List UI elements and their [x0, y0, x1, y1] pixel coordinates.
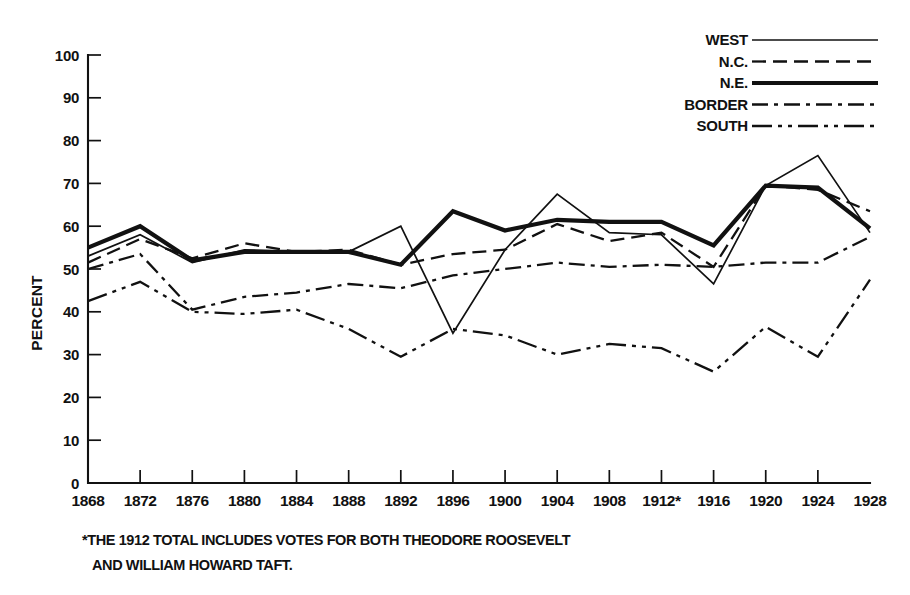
y-tick-label-10: 10	[63, 432, 79, 449]
x-tick-label-1912star: 1912*	[642, 492, 682, 509]
legend-label-west: WEST	[705, 31, 748, 48]
y-tick-label-20: 20	[63, 389, 79, 406]
x-tick-label-1892: 1892	[384, 492, 417, 509]
x-tick-label-1872: 1872	[124, 492, 157, 509]
y-tick-label-40: 40	[63, 303, 79, 320]
y-tick-label-30: 30	[63, 346, 79, 363]
x-tick-label-1868: 1868	[72, 492, 106, 509]
y-axis-title: PERCENT	[28, 275, 45, 351]
x-tick-label-1924: 1924	[801, 492, 835, 509]
legend-label-ne: N.E.	[720, 74, 748, 91]
x-tick-label-1904: 1904	[541, 492, 575, 509]
y-tick-label-50: 50	[63, 261, 79, 278]
footnote-line-2: AND WILLIAM HOWARD TAFT.	[92, 557, 293, 573]
line-chart: 0102030405060708090100 18681872187618801…	[0, 0, 910, 595]
x-tick-label-1888: 1888	[332, 492, 366, 509]
footnote-line-1: *THE 1912 TOTAL INCLUDES VOTES FOR BOTH …	[82, 532, 571, 548]
y-tick-label-60: 60	[63, 218, 79, 235]
y-tick-label-90: 90	[63, 89, 79, 106]
x-tick-label-1876: 1876	[176, 492, 210, 509]
x-tick-label-1920: 1920	[749, 492, 782, 509]
y-tick-label-80: 80	[63, 132, 79, 149]
legend-label-nc: N.C.	[719, 53, 748, 70]
x-tick-label-1916: 1916	[697, 492, 731, 509]
y-tick-label-70: 70	[63, 175, 79, 192]
chart-figure: 0102030405060708090100 18681872187618801…	[0, 0, 910, 595]
x-tick-label-1928: 1928	[854, 492, 888, 509]
x-tick-label-1896: 1896	[436, 492, 470, 509]
x-tick-label-1900: 1900	[489, 492, 522, 509]
legend-label-south: SOUTH	[696, 117, 748, 134]
y-tick-label-100: 100	[55, 47, 79, 64]
legend-label-border: BORDER	[684, 96, 748, 113]
x-tick-label-1908: 1908	[593, 492, 627, 509]
x-tick-label-1884: 1884	[280, 492, 314, 509]
x-tick-label-1880: 1880	[228, 492, 261, 509]
y-tick-label-0: 0	[71, 475, 79, 492]
